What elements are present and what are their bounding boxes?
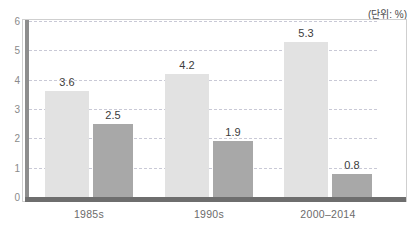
y-axis-tick-label: 4 [4,74,20,85]
y-axis-line [25,20,29,201]
bar-value-label: 0.8 [344,159,359,171]
bar [284,42,328,197]
y-axis-tick-label: 1 [4,162,20,173]
bar [332,174,372,197]
x-axis-category-label: 1990s [194,208,224,220]
bar-group: 4.21.9 [165,21,253,197]
y-axis-tick-label: 3 [4,104,20,115]
plot-area: 3.62.54.21.95.30.8 [29,21,404,197]
bar-value-label: 5.3 [298,27,313,39]
y-axis-tick-label: 6 [4,16,20,27]
bar [93,124,133,197]
bar [213,141,253,197]
x-axis-category-label: 2000–2014 [300,208,355,220]
x-axis-line [25,197,406,202]
bar-value-label: 1.9 [225,126,240,138]
bar [45,91,89,197]
bar-value-label: 3.6 [59,76,74,88]
bar-value-label: 4.2 [179,59,194,71]
y-axis-tick-label: 5 [4,45,20,56]
y-axis-tick-label: 0 [4,192,20,203]
bar [165,74,209,197]
bar-value-label: 2.5 [105,109,120,121]
bar-group: 3.62.5 [45,21,133,197]
y-axis-tick-label: 2 [4,133,20,144]
x-axis-category-label: 1985s [74,208,104,220]
bar-group: 5.30.8 [284,21,372,197]
bar-chart: (단위: %) 3.62.54.21.95.30.8 0123456 1985s… [0,0,417,235]
